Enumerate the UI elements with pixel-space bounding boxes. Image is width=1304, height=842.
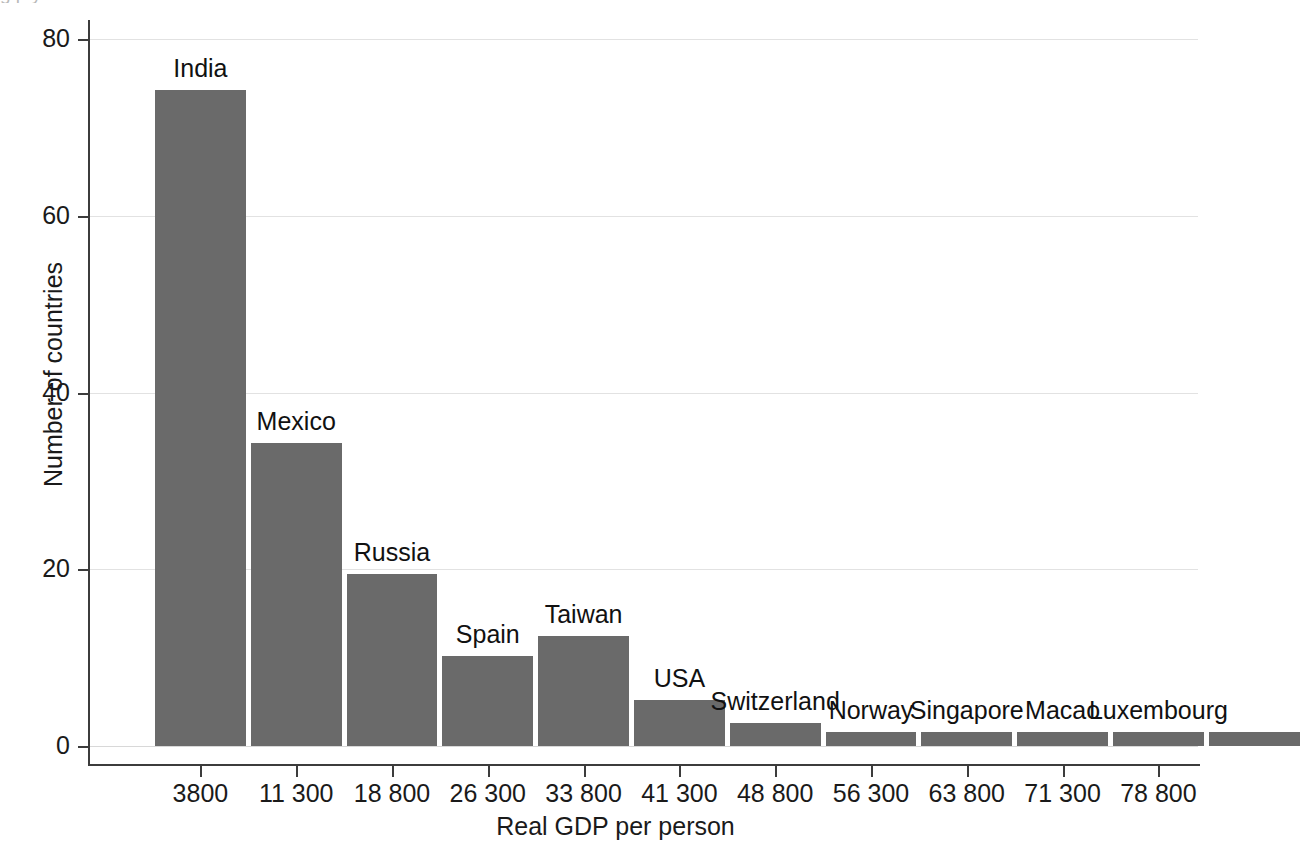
x-tick-label-78800: 78 800 xyxy=(1068,781,1248,806)
bar-russia xyxy=(347,574,438,746)
gridline-0 xyxy=(88,746,1198,747)
x-tick-56300 xyxy=(871,766,873,777)
x-axis-title: Real GDP per person xyxy=(0,812,1231,841)
x-tick-33800 xyxy=(584,766,586,777)
bar-luxembourg xyxy=(1113,732,1204,746)
y-tick-60 xyxy=(78,216,89,218)
gridline-60 xyxy=(88,216,1198,217)
x-tick-78800 xyxy=(1158,766,1160,777)
cut-off-title-remnant: g p y xyxy=(0,0,700,3)
bar-norway xyxy=(826,732,917,746)
x-tick-3800 xyxy=(200,766,202,777)
x-tick-11300 xyxy=(296,766,298,777)
y-axis-title: Number of countries xyxy=(39,75,68,675)
y-tick-20 xyxy=(78,569,89,571)
bar-label-russia: Russia xyxy=(242,540,542,565)
plot-area: IndiaMexicoRussiaSpainTaiwanUSASwitzerla… xyxy=(88,39,1198,746)
bar-bin-12 xyxy=(1209,732,1300,746)
x-tick-63800 xyxy=(967,766,969,777)
y-tick-0 xyxy=(78,746,89,748)
y-tick-40 xyxy=(78,393,89,395)
bar-label-mexico: Mexico xyxy=(146,409,446,434)
bar-switzerland xyxy=(730,723,821,746)
bar-label-india: India xyxy=(50,56,350,81)
bar-mexico xyxy=(251,443,342,746)
bar-label-luxembourg: Luxembourg xyxy=(1008,698,1304,723)
x-tick-71300 xyxy=(1063,766,1065,777)
gridline-40 xyxy=(88,393,1198,394)
x-tick-26300 xyxy=(488,766,490,777)
y-tick-label-0: 0 xyxy=(0,733,70,758)
bar-spain xyxy=(442,656,533,746)
y-tick-label-80: 80 xyxy=(0,26,70,51)
bar-macao xyxy=(1017,732,1108,746)
bar-label-taiwan: Taiwan xyxy=(434,602,734,627)
y-tick-80 xyxy=(78,39,89,41)
x-tick-48800 xyxy=(775,766,777,777)
bar-taiwan xyxy=(538,636,629,746)
x-tick-41300 xyxy=(679,766,681,777)
bar-singapore xyxy=(921,732,1012,746)
x-axis-line xyxy=(88,764,1200,766)
gridline-80 xyxy=(88,39,1198,40)
x-tick-18800 xyxy=(392,766,394,777)
